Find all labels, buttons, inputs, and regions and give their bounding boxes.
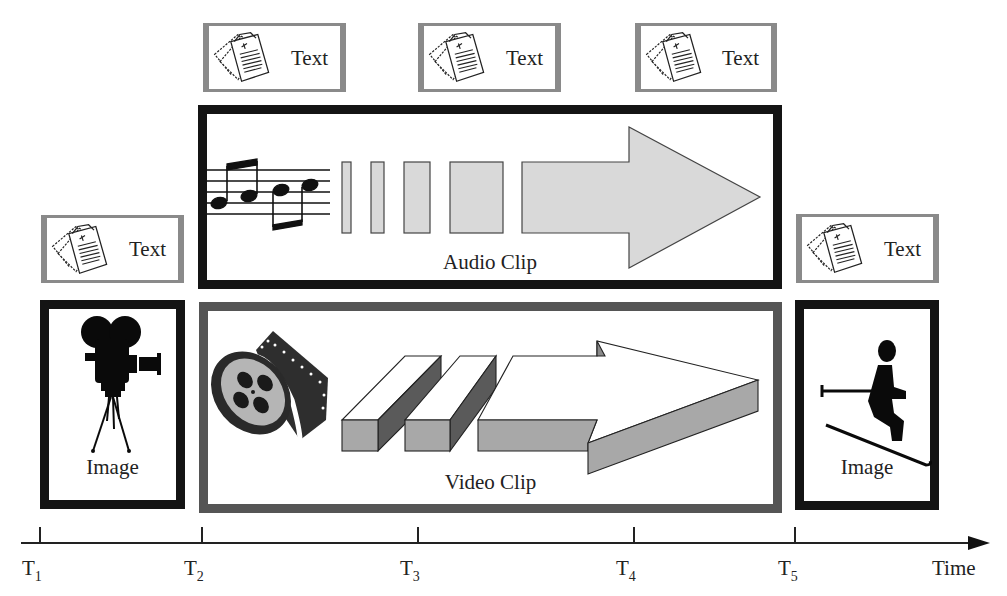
documents-icon: [49, 220, 121, 278]
text-box-label: Text: [291, 45, 328, 70]
documents-icon: [804, 219, 876, 277]
music-notes-icon: [207, 159, 330, 230]
arrowhead-icon: [968, 536, 990, 550]
tick-subscript: 3: [413, 569, 420, 584]
text-box-label: Text: [506, 45, 543, 70]
video-clip-box: Video Clip: [199, 302, 782, 513]
tick-label-t1: T1: [22, 556, 42, 585]
text-box-1: Text: [41, 215, 184, 283]
tick-label-t5: T5: [778, 556, 798, 585]
image-box-label: Image: [49, 455, 176, 480]
tick-subscript: 4: [629, 569, 636, 584]
tick-label-t2: T2: [184, 556, 204, 585]
text-box-label: Text: [129, 237, 166, 262]
skier-icon: [808, 317, 934, 467]
tick-subscript: 5: [791, 569, 798, 584]
tick-label-t3: T3: [400, 556, 420, 585]
image-box-1: Image: [40, 300, 185, 509]
documents-icon: [426, 28, 498, 86]
text-box-2: Text: [203, 23, 346, 92]
text-box-3: Text: [418, 23, 561, 92]
time-axis-label: Time: [932, 556, 976, 581]
tick-base: T: [616, 556, 629, 580]
timeline-axis: [0, 520, 1007, 560]
video-clip-label: Video Clip: [208, 470, 773, 495]
tick-base: T: [184, 556, 197, 580]
audio-clip-label: Audio Clip: [207, 250, 773, 275]
film-reel-icon: [208, 331, 328, 451]
tick-base: T: [778, 556, 791, 580]
documents-icon: [643, 28, 715, 86]
tick-label-t4: T4: [616, 556, 636, 585]
tick-subscript: 2: [197, 569, 204, 584]
tick-subscript: 1: [35, 569, 42, 584]
documents-icon: [211, 28, 283, 86]
text-box-4: Text: [635, 23, 777, 92]
image-box-2: Image: [795, 300, 939, 510]
text-box-label: Text: [722, 45, 759, 70]
text-box-label: Text: [884, 236, 921, 261]
tick-base: T: [400, 556, 413, 580]
tick-base: T: [22, 556, 35, 580]
audio-clip-box: Audio Clip: [198, 105, 782, 289]
image-box-label: Image: [804, 455, 930, 480]
text-box-5: Text: [796, 214, 939, 283]
movie-camera-icon: [71, 311, 171, 461]
